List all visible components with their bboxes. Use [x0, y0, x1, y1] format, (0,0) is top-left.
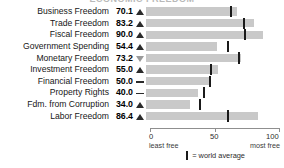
triangle-up-icon [136, 114, 144, 120]
trend-down-icon [133, 54, 146, 63]
trend-up-icon [133, 112, 146, 121]
freedom-label: Labor Freedom [0, 112, 113, 121]
freedom-label: Fdm. from Corruption [0, 100, 113, 109]
triangle-up-icon [136, 9, 144, 15]
freedom-label: Monetary Freedom [0, 54, 113, 63]
bar-track [146, 52, 284, 64]
freedom-score: 55.0 [113, 65, 133, 74]
score-bar [146, 77, 211, 85]
score-bar [146, 89, 198, 97]
trend-flat-icon [133, 77, 146, 86]
legend-label: = world average [192, 151, 245, 160]
triangle-up-icon [136, 67, 144, 73]
triangle-up-icon [136, 102, 144, 108]
trend-up-icon [133, 65, 146, 74]
freedom-score: 70.1 [113, 7, 133, 16]
world-average-tick [199, 99, 201, 110]
axis-label-100: 100 [266, 132, 279, 141]
world-average-tick [203, 87, 205, 98]
score-bar [146, 54, 241, 62]
freedom-label: Government Spending [0, 42, 113, 51]
freedom-label: Property Rights [0, 88, 113, 97]
freedom-score: 73.2 [113, 54, 133, 63]
bar-track [146, 64, 284, 76]
freedom-score: 34.0 [113, 100, 133, 109]
score-bar [146, 100, 190, 108]
x-axis: 0 50 100 least free most free [150, 128, 280, 168]
trend-flat-icon [133, 88, 146, 97]
score-bar [146, 19, 254, 27]
bar-track [146, 18, 284, 30]
chart-title: ECONOMIC FREEDOM [0, 0, 284, 2]
freedom-label: Investment Freedom [0, 65, 113, 74]
freedom-row: Business Freedom70.1 [0, 6, 284, 18]
freedom-label: Business Freedom [0, 7, 113, 16]
trend-up-icon [133, 7, 146, 16]
economic-freedom-chart: ECONOMIC FREEDOM Business Freedom70.1Tra… [0, 0, 284, 168]
world-average-tick [244, 29, 246, 40]
bar-track [146, 6, 284, 18]
world-average-tick [227, 110, 229, 121]
triangle-down-outline-icon [136, 56, 144, 62]
bar-track [146, 76, 284, 88]
triangle-up-icon [136, 44, 144, 50]
legend: = world average [186, 151, 245, 160]
axis-tick-100 [279, 128, 280, 132]
world-average-tick [230, 6, 232, 17]
bar-track [146, 41, 284, 53]
dash-icon [136, 93, 144, 95]
freedom-label: Fiscal Freedom [0, 30, 113, 39]
freedom-row: Trade Freedom83.2 [0, 18, 284, 30]
dash-icon [136, 81, 144, 83]
freedom-score: 90.0 [113, 30, 133, 39]
freedom-row: Government Spending54.4 [0, 41, 284, 53]
bar-track [146, 87, 284, 99]
freedom-row: Fiscal Freedom90.0 [0, 29, 284, 41]
world-average-tick [210, 64, 212, 75]
freedom-label: Trade Freedom [0, 19, 113, 28]
freedom-row: Property Rights40.0 [0, 87, 284, 99]
triangle-up-icon [136, 32, 144, 38]
freedom-label: Financial Freedom [0, 77, 113, 86]
world-average-tick [227, 41, 229, 52]
bar-track [146, 110, 284, 122]
freedom-row: Fdm. from Corruption34.0 [0, 99, 284, 111]
trend-up-icon [133, 19, 146, 28]
trend-up-icon [133, 100, 146, 109]
axis-label-50: 50 [210, 132, 218, 141]
axis-caption-least-free: least free [149, 141, 179, 150]
bar-track [146, 29, 284, 41]
world-average-tick [209, 76, 211, 87]
score-bar [146, 112, 258, 120]
freedom-score: 83.2 [113, 19, 133, 28]
freedom-row-list: Business Freedom70.1Trade Freedom83.2Fis… [0, 6, 284, 122]
freedom-score: 40.0 [113, 88, 133, 97]
freedom-row: Labor Freedom86.4 [0, 110, 284, 122]
freedom-score: 54.4 [113, 42, 133, 51]
score-bar [146, 42, 217, 50]
trend-up-icon [133, 30, 146, 39]
freedom-row: Investment Freedom55.0 [0, 64, 284, 76]
axis-caption-most-free: most free [250, 141, 280, 150]
world-average-tick [238, 52, 240, 63]
freedom-score: 86.4 [113, 112, 133, 121]
world-average-tick [243, 18, 245, 29]
bar-track [146, 99, 284, 111]
freedom-row: Financial Freedom50.0 [0, 76, 284, 88]
world-average-marker-icon [186, 151, 188, 160]
trend-up-icon [133, 42, 146, 51]
axis-label-0: 0 [149, 132, 153, 141]
score-bar [146, 7, 237, 15]
triangle-up-icon [136, 21, 144, 27]
score-bar [146, 65, 218, 73]
freedom-row: Monetary Freedom73.2 [0, 52, 284, 64]
freedom-score: 50.0 [113, 77, 133, 86]
